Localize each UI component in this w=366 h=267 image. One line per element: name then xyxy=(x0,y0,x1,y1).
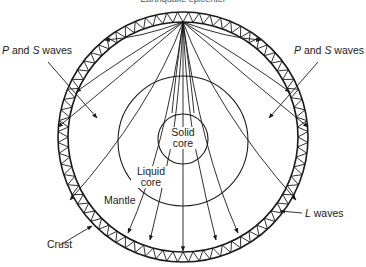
label-solid-core: Solid core xyxy=(165,127,201,149)
label-l-waves: L waves xyxy=(305,208,344,219)
title-epicenter: Earthquake epicenter xyxy=(128,0,238,5)
label-crust: Crust xyxy=(47,239,72,250)
label-p-and-s-waves-left: P and S waves xyxy=(2,45,72,56)
label-mantle: Mantle xyxy=(104,195,136,206)
label-liquid-core: Liquid core xyxy=(131,166,171,188)
label-p-and-s-waves-right: P and S waves xyxy=(294,45,364,56)
